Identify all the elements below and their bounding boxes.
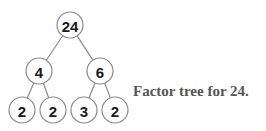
tree-edge <box>77 36 93 60</box>
tree-edge <box>46 36 62 60</box>
tree-node: 2 <box>40 97 66 123</box>
tree-node: 2 <box>9 97 35 123</box>
tree-edge <box>105 83 111 98</box>
tree-edge <box>27 83 34 98</box>
tree-node: 6 <box>87 58 113 84</box>
tree-nodes: 24462232 <box>9 12 128 123</box>
node-label: 2 <box>111 103 119 120</box>
node-label: 2 <box>18 103 26 120</box>
node-label: 6 <box>96 64 104 81</box>
tree-node: 3 <box>71 97 97 123</box>
caption: Factor tree for 24. <box>133 83 249 100</box>
node-label: 2 <box>49 103 57 120</box>
node-label: 3 <box>80 103 88 120</box>
tree-edge <box>89 83 95 98</box>
node-label: 4 <box>35 64 44 81</box>
node-label: 24 <box>62 18 79 35</box>
tree-node: 24 <box>57 12 83 38</box>
tree-node: 4 <box>26 58 52 84</box>
tree-edge <box>43 83 48 98</box>
factor-tree: 24462232 <box>0 0 266 131</box>
tree-node: 2 <box>102 97 128 123</box>
